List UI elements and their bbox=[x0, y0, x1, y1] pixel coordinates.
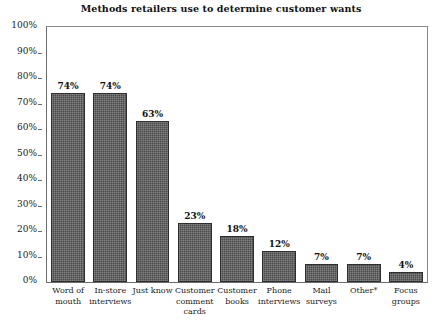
bar-group[interactable]: 12% bbox=[262, 27, 296, 282]
bar[interactable] bbox=[93, 93, 127, 282]
y-axis-tick-mark bbox=[38, 155, 42, 156]
x-axis-category-line: Mail bbox=[300, 286, 342, 297]
chart-title: Methods retailers use to determine custo… bbox=[0, 3, 442, 14]
bar-group[interactable]: 74% bbox=[51, 27, 85, 282]
x-axis-category-label: Phoneinterviews bbox=[258, 286, 300, 307]
y-axis-tick-mark bbox=[38, 257, 42, 258]
y-axis-tick-label: 40% bbox=[17, 173, 37, 183]
y-axis-tick-label: 90% bbox=[17, 46, 37, 56]
x-axis-category-line: interviews bbox=[89, 297, 131, 308]
bar-group[interactable]: 7% bbox=[305, 27, 339, 282]
y-axis-tick-label: 20% bbox=[17, 224, 37, 234]
x-axis-category-line: mouth bbox=[47, 297, 89, 308]
y-axis-tick-mark bbox=[38, 129, 42, 130]
x-axis-category-line: Customer bbox=[216, 286, 258, 297]
bar-value-label: 63% bbox=[136, 109, 170, 119]
y-axis-tick-label: 0% bbox=[23, 275, 37, 285]
bar-value-label: 7% bbox=[305, 252, 339, 262]
y-axis-tick-mark bbox=[38, 78, 42, 79]
bar[interactable] bbox=[136, 121, 170, 282]
x-axis-category-line: Just know bbox=[131, 286, 173, 297]
y-axis-tick-label: 30% bbox=[17, 199, 37, 209]
bar[interactable] bbox=[389, 272, 423, 282]
bar-group[interactable]: 23% bbox=[178, 27, 212, 282]
x-axis: Word ofmouthIn-storeinterviewsJust knowC… bbox=[47, 286, 427, 327]
bar[interactable] bbox=[51, 93, 85, 282]
y-axis-tick-label: 10% bbox=[17, 250, 37, 260]
x-axis-category-line: Customer bbox=[174, 286, 216, 297]
y-axis-tick-mark bbox=[38, 206, 42, 207]
x-axis-category-label: Customerbooks bbox=[216, 286, 258, 307]
x-axis-category-label: Focusgroups bbox=[385, 286, 427, 307]
y-axis-tick-label: 70% bbox=[17, 97, 37, 107]
bar-value-label: 18% bbox=[220, 224, 254, 234]
y-axis-tick-mark bbox=[38, 104, 42, 105]
bar-value-label: 7% bbox=[347, 252, 381, 262]
y-axis-tick-mark bbox=[38, 180, 42, 181]
x-axis-category-label: Just know bbox=[131, 286, 173, 297]
bar[interactable] bbox=[262, 251, 296, 282]
x-axis-category-line: interviews bbox=[258, 297, 300, 308]
bar-group[interactable]: 4% bbox=[389, 27, 423, 282]
x-axis-category-label: Mailsurveys bbox=[300, 286, 342, 307]
bar[interactable] bbox=[305, 264, 339, 282]
x-axis-category-label: Other* bbox=[343, 286, 385, 297]
x-axis-category-line: Focus bbox=[385, 286, 427, 297]
x-axis-category-label: Customercommentcards bbox=[174, 286, 216, 318]
y-axis-tick-label: 80% bbox=[17, 71, 37, 81]
x-axis-category-line: books bbox=[216, 297, 258, 308]
bar-value-label: 74% bbox=[93, 81, 127, 91]
y-axis-tick-mark bbox=[38, 53, 42, 54]
y-axis: 0%10%20%30%40%50%60%70%80%90%100% bbox=[0, 26, 42, 283]
bar[interactable] bbox=[178, 223, 212, 282]
x-axis-category-line: groups bbox=[385, 297, 427, 308]
x-axis-category-line: cards bbox=[174, 307, 216, 318]
bar-group[interactable]: 63% bbox=[136, 27, 170, 282]
x-axis-category-line: Other* bbox=[343, 286, 385, 297]
x-axis-category-line: surveys bbox=[300, 297, 342, 308]
x-axis-category-line: comment bbox=[174, 297, 216, 308]
x-axis-category-line: Word of bbox=[47, 286, 89, 297]
y-axis-tick-label: 100% bbox=[11, 20, 37, 30]
x-axis-category-label: Word ofmouth bbox=[47, 286, 89, 307]
bar-value-label: 74% bbox=[51, 81, 85, 91]
bar-value-label: 23% bbox=[178, 211, 212, 221]
bar-group[interactable]: 18% bbox=[220, 27, 254, 282]
bar[interactable] bbox=[347, 264, 381, 282]
y-axis-tick-label: 60% bbox=[17, 122, 37, 132]
x-axis-category-line: In-store bbox=[89, 286, 131, 297]
y-axis-tick-label: 50% bbox=[17, 148, 37, 158]
bar-group[interactable]: 7% bbox=[347, 27, 381, 282]
bar[interactable] bbox=[220, 236, 254, 282]
bar-group[interactable]: 74% bbox=[93, 27, 127, 282]
x-axis-category-label: In-storeinterviews bbox=[89, 286, 131, 307]
y-axis-tick-mark bbox=[38, 231, 42, 232]
bar-value-label: 4% bbox=[389, 260, 423, 270]
bar-chart: Methods retailers use to determine custo… bbox=[0, 0, 442, 327]
x-axis-category-line: Phone bbox=[258, 286, 300, 297]
bar-value-label: 12% bbox=[262, 239, 296, 249]
bars-layer: 74%74%63%23%18%12%7%7%4% bbox=[47, 27, 427, 282]
